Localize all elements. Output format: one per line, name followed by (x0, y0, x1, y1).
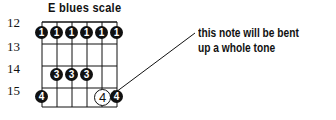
note-s1-f15: 4 (35, 90, 48, 103)
note-s6-f15: 4 (110, 90, 123, 103)
annotation-arrow-line (112, 33, 195, 95)
note-s3-f12: 1 (65, 26, 78, 39)
note-s1-f12: 1 (35, 26, 48, 39)
annotation-line-1: this note will be bent (198, 26, 299, 41)
note-s6-f12: 1 (110, 26, 123, 39)
annotation-line-2: up a whole tone (198, 41, 299, 56)
note-s2-f14: 3 (50, 68, 63, 81)
bend-annotation: this note will be bent up a whole tone (198, 26, 299, 56)
fretboard-grid (0, 0, 336, 120)
note-s5-f12: 1 (95, 26, 108, 39)
note-s4-f14: 3 (80, 68, 93, 81)
note-s2-f12: 1 (50, 26, 63, 39)
note-s4-f12: 1 (80, 26, 93, 39)
note-s3-f14: 3 (65, 68, 78, 81)
note-bend-s5-f15: 4 (94, 89, 111, 106)
